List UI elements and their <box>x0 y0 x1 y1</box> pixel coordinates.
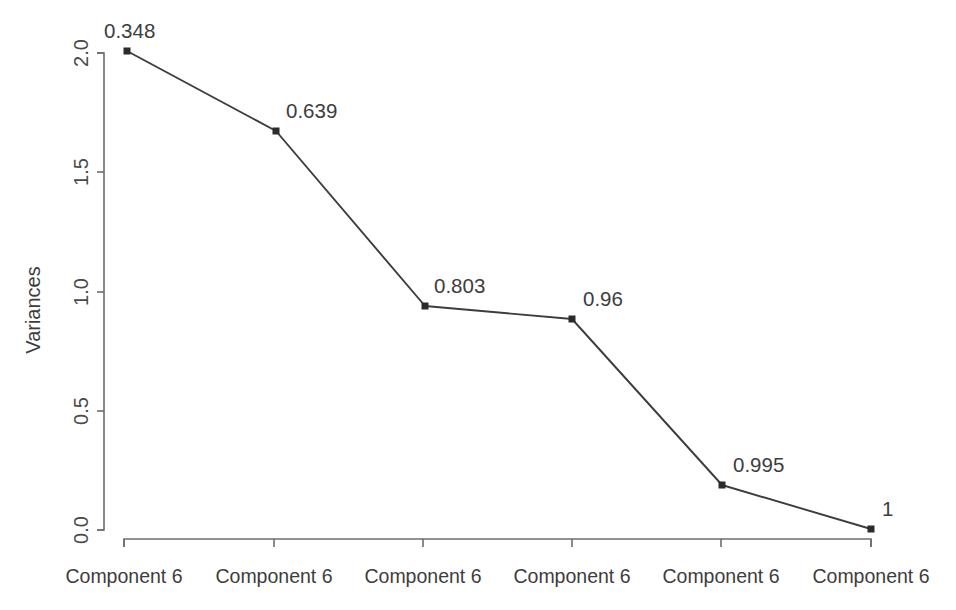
scree-plot-figure: 2.0 1.5 1.0 0.5 0.0 Variances Component … <box>0 0 956 610</box>
point-value-label-5: 0.995 <box>733 453 784 476</box>
y-axis-title: Variances <box>22 266 44 353</box>
data-point-6 <box>868 526 875 533</box>
x-tick-label-2: Component 6 <box>215 565 332 587</box>
point-value-label-3: 0.803 <box>434 274 485 297</box>
data-point-4 <box>569 316 576 323</box>
point-value-label-6: 1 <box>882 497 893 520</box>
x-tick-label-6: Component 6 <box>812 565 929 587</box>
y-tick-label-0.0: 0.0 <box>70 516 92 544</box>
x-tick-label-5: Component 6 <box>662 565 779 587</box>
x-axis: Component 6 Component 6 Component 6 Comp… <box>65 539 929 587</box>
point-value-label-4: 0.96 <box>583 287 623 310</box>
data-point-5 <box>719 482 726 489</box>
point-value-labels: 0.348 0.639 0.803 0.96 0.995 1 <box>104 19 893 520</box>
x-tick-label-3: Component 6 <box>364 565 481 587</box>
x-tick-label-4: Component 6 <box>513 565 630 587</box>
y-tick-label-1.0: 1.0 <box>70 278 92 306</box>
data-point-1 <box>124 48 131 55</box>
y-tick-label-2.0: 2.0 <box>70 39 92 67</box>
x-tick-label-1: Component 6 <box>65 565 182 587</box>
plot-canvas: 2.0 1.5 1.0 0.5 0.0 Variances Component … <box>0 0 956 610</box>
y-tick-label-1.5: 1.5 <box>70 158 92 186</box>
point-value-label-1: 0.348 <box>104 19 155 42</box>
x-axis-line <box>124 539 871 547</box>
y-tick-label-0.5: 0.5 <box>70 397 92 425</box>
y-axis: 2.0 1.5 1.0 0.5 0.0 Variances <box>22 39 104 544</box>
point-value-label-2: 0.639 <box>286 99 337 122</box>
data-point-2 <box>273 128 280 135</box>
data-point-3 <box>422 303 429 310</box>
